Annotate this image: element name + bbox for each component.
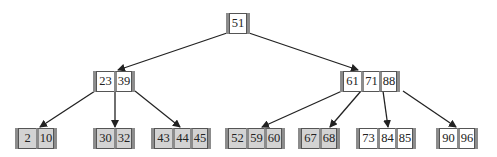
- key: 10: [36, 128, 54, 149]
- leaf-node: 43 44 45: [151, 128, 211, 149]
- key: 30: [96, 128, 114, 149]
- leaf-node: 2 10: [15, 128, 57, 149]
- key: 59: [246, 128, 264, 149]
- key: 23: [96, 71, 114, 92]
- edge-71-88: [383, 91, 388, 127]
- key: 60: [264, 128, 282, 149]
- leaf-node: 67 68: [298, 128, 340, 149]
- leaf-node: 90 96: [436, 128, 478, 149]
- key: 61: [343, 71, 361, 92]
- key: 96: [457, 128, 475, 149]
- key: 84: [377, 128, 395, 149]
- key: 2: [18, 128, 36, 149]
- root-node: 51: [226, 13, 250, 34]
- key: 32: [114, 128, 132, 149]
- leaf-node: 73 84 85: [356, 128, 416, 149]
- key: 88: [379, 71, 397, 92]
- key: 45: [190, 128, 208, 149]
- edge-23-left: [40, 91, 95, 127]
- edge-root-right: [249, 33, 358, 70]
- internal-node-left: 23 39: [93, 71, 135, 92]
- key: 39: [114, 71, 132, 92]
- edge-88-right: [403, 91, 456, 127]
- internal-node-right: 61 71 88: [340, 71, 400, 92]
- key: 67: [301, 128, 319, 149]
- leaf-node: 52 59 60: [225, 128, 285, 149]
- edge-root-left: [118, 33, 227, 70]
- key: 44: [172, 128, 190, 149]
- key: 52: [228, 128, 246, 149]
- key: 43: [154, 128, 172, 149]
- edge-39-right: [135, 91, 180, 127]
- key: 71: [361, 71, 379, 92]
- edge-61-left: [262, 91, 342, 127]
- key: 51: [229, 13, 247, 34]
- key: 68: [319, 128, 337, 149]
- edge-61-71: [330, 91, 361, 127]
- key: 90: [439, 128, 457, 149]
- key: 85: [395, 128, 413, 149]
- key: 73: [359, 128, 377, 149]
- leaf-node: 30 32: [93, 128, 135, 149]
